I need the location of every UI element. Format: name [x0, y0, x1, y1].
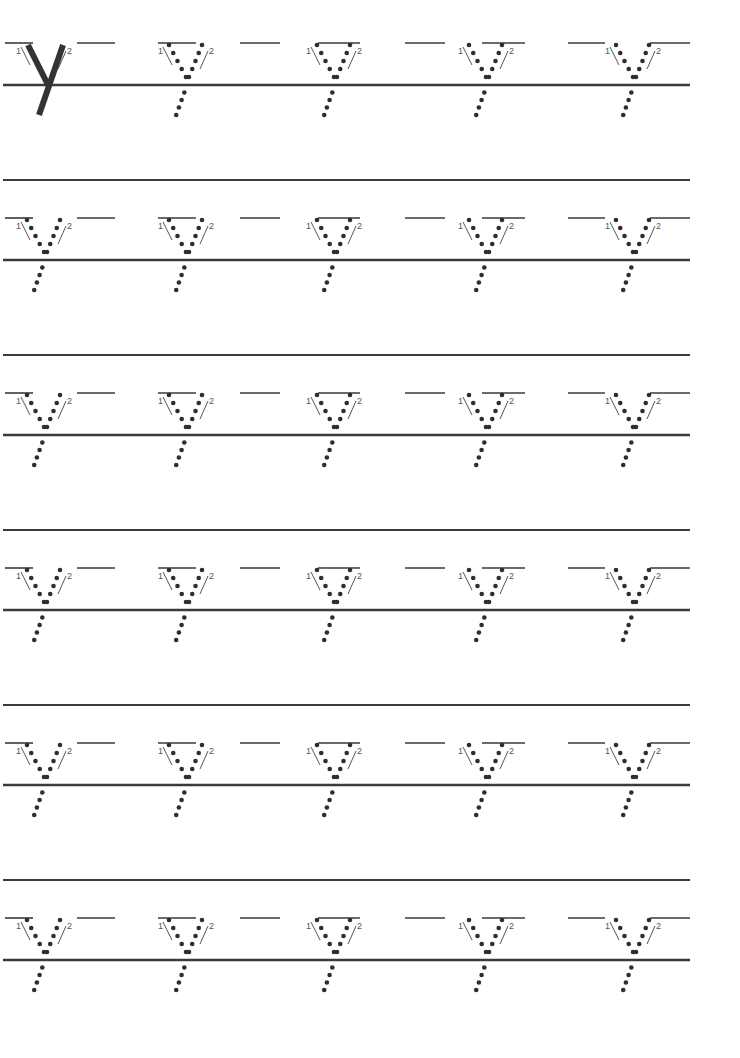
trace-dot: [496, 751, 501, 756]
stroke-arrow-1: [163, 572, 172, 590]
stroke-arrow-2: [500, 226, 508, 244]
letter-y: 12: [16, 918, 72, 993]
stroke-arrow-1: [610, 922, 619, 940]
trace-dot: [32, 463, 37, 468]
trace-dot: [477, 805, 482, 810]
trace-dot: [193, 759, 198, 764]
trace-dot: [614, 393, 619, 398]
trace-dot: [187, 250, 192, 255]
trace-dot: [48, 417, 53, 422]
trace-dot: [54, 226, 59, 231]
stroke-arrow-2: [647, 401, 655, 419]
trace-dot: [315, 568, 320, 573]
trace-dot: [624, 105, 629, 110]
trace-dot: [471, 51, 476, 56]
stroke-arrow-1: [311, 747, 320, 765]
trace-dot: [177, 280, 182, 285]
trace-dot: [643, 226, 648, 231]
trace-dot: [479, 417, 484, 422]
trace-dot: [37, 798, 42, 803]
trace-dot: [37, 273, 42, 278]
trace-dot: [29, 226, 34, 231]
trace-dot: [621, 288, 626, 293]
trace-dot: [48, 767, 53, 772]
trace-dot: [330, 90, 335, 95]
trace-dot: [341, 234, 346, 239]
trace-dot: [179, 242, 184, 247]
trace-dot: [179, 973, 184, 978]
trace-dot: [171, 51, 176, 56]
trace-dot: [190, 242, 195, 247]
stroke-arrow-2: [200, 576, 208, 594]
stroke-number: 2: [357, 221, 362, 231]
trace-dot: [624, 280, 629, 285]
trace-dot: [637, 67, 642, 72]
trace-dot: [474, 113, 479, 118]
trace-dot: [618, 926, 623, 931]
trace-dot: [32, 288, 37, 293]
trace-dot: [647, 743, 652, 748]
trace-dot: [33, 234, 38, 239]
trace-dot: [193, 934, 198, 939]
trace-dot: [475, 234, 480, 239]
stroke-number: 2: [209, 571, 214, 581]
trace-dot: [626, 592, 631, 597]
trace-dot: [179, 767, 184, 772]
worksheet-canvas: 1212121212121212121212121212121212121212…: [0, 0, 740, 1058]
trace-dot: [187, 425, 192, 430]
trace-dot: [634, 950, 639, 955]
trace-dot: [193, 584, 198, 589]
stroke-number: 1: [16, 746, 21, 756]
trace-dot: [200, 218, 205, 223]
trace-dot: [33, 759, 38, 764]
trace-dot: [37, 767, 42, 772]
trace-dot: [40, 265, 45, 270]
letter-y: 12: [306, 43, 362, 118]
letter-y: 12: [158, 393, 214, 468]
trace-dot: [647, 218, 652, 223]
trace-dot: [647, 568, 652, 573]
trace-dot: [327, 242, 332, 247]
trace-dot: [325, 805, 330, 810]
trace-dot: [45, 250, 50, 255]
trace-dot: [637, 242, 642, 247]
stroke-number: 1: [458, 221, 463, 231]
trace-dot: [196, 226, 201, 231]
trace-dot: [622, 234, 627, 239]
stroke-number: 2: [209, 46, 214, 56]
trace-dot: [637, 942, 642, 947]
stroke-number: 1: [605, 571, 610, 581]
trace-dot: [477, 630, 482, 635]
trace-dot: [482, 90, 487, 95]
trace-dot: [475, 409, 480, 414]
letter-y: 12: [605, 393, 661, 468]
stroke-number: 1: [306, 746, 311, 756]
trace-dot: [58, 393, 63, 398]
trace-dot: [323, 934, 328, 939]
trace-dot: [477, 980, 482, 985]
trace-dot: [48, 242, 53, 247]
stroke-number: 1: [458, 396, 463, 406]
trace-dot: [323, 234, 328, 239]
trace-dot: [327, 67, 332, 72]
trace-dot: [338, 417, 343, 422]
trace-dot: [487, 425, 492, 430]
trace-dot: [179, 592, 184, 597]
trace-dot: [471, 226, 476, 231]
letter-y: 12: [605, 218, 661, 293]
trace-dot: [190, 67, 195, 72]
trace-dot: [637, 592, 642, 597]
stroke-number: 1: [306, 221, 311, 231]
trace-dot: [618, 226, 623, 231]
letter-y: 12: [16, 743, 72, 818]
trace-dot: [348, 43, 353, 48]
stroke-number: 1: [16, 921, 21, 931]
stroke-arrow-1: [463, 222, 472, 240]
trace-dot: [335, 250, 340, 255]
stroke-number: 2: [656, 46, 661, 56]
trace-dot: [327, 973, 332, 978]
handwriting-worksheet: 1212121212121212121212121212121212121212…: [0, 0, 740, 1058]
trace-dot: [193, 409, 198, 414]
trace-dot: [51, 759, 56, 764]
trace-dot: [477, 280, 482, 285]
